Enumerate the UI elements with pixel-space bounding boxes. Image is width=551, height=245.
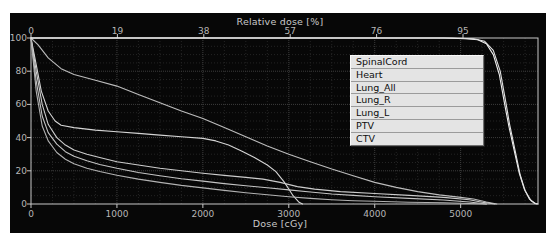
dvh-chart-panel: Relative dose [%] 01938577695 0204060801… [10,13,546,233]
dvh-figure: Relative dose [%] 01938577695 0204060801… [0,0,551,245]
x-tick-label: 1000 [100,209,134,219]
y-tick-label: 100 [7,33,27,43]
y-tick-label: 80 [7,66,27,76]
legend-row-lung_all[interactable]: Lung_All [351,82,483,95]
top-tick-label: 38 [187,26,221,36]
y-tick-label: 0 [7,199,27,209]
legend-row-lung_l[interactable]: Lung_L [351,107,483,120]
legend: SpinalCordHeartLung_AllLung_RLung_LPTVCT… [350,55,484,146]
top-tick-label: 19 [100,26,134,36]
legend-row-heart[interactable]: Heart [351,69,483,82]
legend-row-lung_r[interactable]: Lung_R [351,94,483,107]
y-tick-label: 20 [7,166,27,176]
legend-row-spinalcord[interactable]: SpinalCord [351,56,483,69]
x-tick-label: 5000 [444,209,478,219]
top-tick-label: 95 [446,26,480,36]
y-tick-label: 60 [7,99,27,109]
x-tick-label: 0 [14,209,48,219]
top-tick-label: 57 [273,26,307,36]
legend-row-ptv[interactable]: PTV [351,120,483,133]
top-tick-label: 76 [360,26,394,36]
x-axis-title: Dose [cGy] [205,218,355,229]
x-tick-label: 4000 [358,209,392,219]
legend-row-ctv[interactable]: CTV [351,133,483,145]
y-tick-label: 40 [7,133,27,143]
